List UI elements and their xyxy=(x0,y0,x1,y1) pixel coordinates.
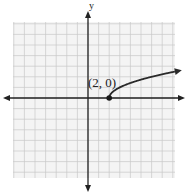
point-label: (2, 0) xyxy=(88,75,116,91)
x-axis-left-arrow-icon xyxy=(3,95,10,101)
start-point-dot xyxy=(106,95,112,101)
grid-background xyxy=(13,22,175,178)
y-axis-label: y xyxy=(89,0,94,11)
y-axis-down-arrow-icon xyxy=(85,185,91,192)
graph-canvas xyxy=(0,0,185,192)
x-axis-right-arrow-icon xyxy=(178,95,185,101)
curve-arrow-icon xyxy=(174,68,182,75)
y-axis-up-arrow-icon xyxy=(85,11,91,18)
